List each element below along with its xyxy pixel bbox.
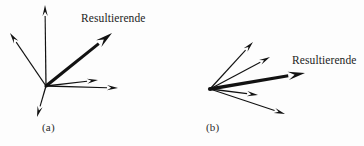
panel-b-caption: (b)	[206, 121, 219, 133]
vector-right-lower	[46, 85, 118, 90]
vector-arrowhead-icon	[10, 33, 18, 44]
vector-arrowhead-icon	[247, 91, 258, 96]
vector-down-left	[37, 86, 47, 117]
vector-origin-point	[208, 87, 212, 91]
vector-shaft	[46, 85, 107, 88]
vector-arrowhead-icon	[107, 85, 118, 90]
vector-arrowhead-icon	[274, 108, 285, 114]
vector-vertical-up	[43, 5, 48, 86]
panel-a-resultant-label: Resultierende	[81, 12, 146, 24]
vector-shaft	[45, 16, 47, 86]
vector-resultant	[45, 33, 112, 87]
vector-shaft	[40, 86, 47, 107]
vector-arrowhead-icon	[259, 57, 270, 64]
vector-arrowhead-icon	[288, 72, 305, 80]
vector-origin-point	[44, 84, 47, 87]
vector-up-left	[10, 33, 47, 86]
panel-b-vectors	[208, 42, 305, 114]
vector-shaft	[16, 42, 47, 87]
panel-a-caption: (a)	[42, 121, 55, 133]
vector-figure: (a) (b) Resultierende Resultierende	[0, 0, 364, 146]
vector-fan-4	[210, 88, 285, 114]
vector-shaft	[210, 88, 275, 111]
vector-arrowhead-icon	[37, 106, 43, 117]
vector-fan-3	[210, 88, 258, 96]
vector-arrowhead-icon	[43, 5, 48, 16]
vector-arrowhead-icon	[87, 79, 98, 84]
panel-b-resultant-label: Resultierende	[292, 54, 357, 66]
